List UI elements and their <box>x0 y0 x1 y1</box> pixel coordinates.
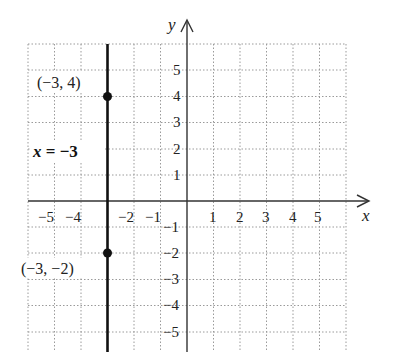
y-tick: 2 <box>173 141 181 157</box>
y-tick: −3 <box>163 271 179 287</box>
y-tick: 1 <box>173 167 181 183</box>
y-tick: 4 <box>173 88 181 104</box>
y-tick: 3 <box>173 114 181 130</box>
x-tick: −5 <box>38 209 54 225</box>
x-axis-label: x <box>361 206 370 225</box>
y-axis-label: y <box>166 15 176 34</box>
y-tick: −1 <box>163 219 179 235</box>
y-tick: −5 <box>163 324 179 340</box>
y-tick: −4 <box>163 297 179 313</box>
point-minus3-minus2 <box>103 249 112 258</box>
equation-value: = −3 <box>42 142 78 161</box>
coordinate-plane: y x −5 −4 −2 −1 1 2 3 4 5 5 4 3 2 1 −1 −… <box>0 0 398 352</box>
x-tick: 1 <box>209 209 217 225</box>
equation-variable: x <box>32 142 42 161</box>
point-label-bottom: (−3, −2) <box>21 260 74 278</box>
x-tick: −4 <box>65 209 81 225</box>
point-minus3-4 <box>103 92 112 101</box>
y-tick: −2 <box>163 245 179 261</box>
x-axis <box>28 195 369 207</box>
point-label-top: (−3, 4) <box>37 74 81 92</box>
x-tick: −1 <box>145 209 161 225</box>
x-tick: 3 <box>262 209 270 225</box>
y-tick: 5 <box>173 62 181 78</box>
equation-label: x = −3 <box>32 142 78 161</box>
x-tick: 4 <box>289 209 297 225</box>
x-tick: 2 <box>236 209 244 225</box>
x-tick: 5 <box>314 209 322 225</box>
x-tick-labels: −5 −4 −2 −1 1 2 3 4 5 <box>38 209 322 225</box>
x-tick: −2 <box>118 209 134 225</box>
